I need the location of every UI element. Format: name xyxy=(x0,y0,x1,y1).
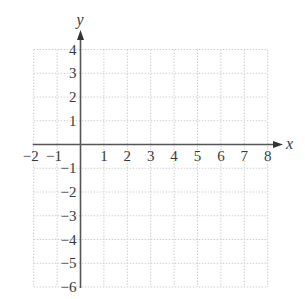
x-tick-label: 1 xyxy=(100,148,108,164)
y-tick-label: −1 xyxy=(61,160,77,176)
x-axis-label: x xyxy=(285,135,293,152)
x-tick-label: 3 xyxy=(147,148,155,164)
y-tick-label: 1 xyxy=(69,113,77,129)
x-tick-label: 5 xyxy=(194,148,202,164)
y-tick-label: 2 xyxy=(69,89,77,105)
x-axis-arrow-icon xyxy=(273,141,283,148)
x-tick-label: 4 xyxy=(170,148,178,164)
y-tick-label: −5 xyxy=(61,255,77,271)
coordinate-plane: −2−112345678 4321−1−2−3−4−5−6 x y xyxy=(0,0,305,299)
x-tick-label: 2 xyxy=(124,148,132,164)
y-tick-label: −6 xyxy=(61,279,77,295)
y-tick-label: 4 xyxy=(69,42,77,58)
y-tick-label: −2 xyxy=(61,184,77,200)
y-axis-arrow-icon xyxy=(77,30,84,40)
y-axis-label: y xyxy=(75,11,85,29)
x-tick-label: 8 xyxy=(264,148,272,164)
y-tick-labels: 4321−1−2−3−4−5−6 xyxy=(61,42,77,296)
x-tick-label: 6 xyxy=(217,148,225,164)
y-tick-label: −4 xyxy=(61,232,77,248)
x-tick-label: 7 xyxy=(241,148,249,164)
y-tick-label: 3 xyxy=(69,65,77,81)
x-tick-label: −2 xyxy=(23,148,39,164)
y-tick-label: −3 xyxy=(61,208,77,224)
